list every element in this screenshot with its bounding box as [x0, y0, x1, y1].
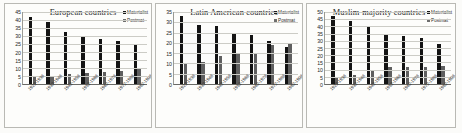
bar-group — [29, 12, 36, 84]
y-axis-tick: 15 — [8, 58, 21, 64]
bar-group — [134, 12, 141, 84]
y-axis-tick: 15 — [159, 51, 172, 57]
bar-group — [81, 12, 88, 84]
y-axis-tick: 20 — [310, 53, 323, 59]
bar-group — [64, 12, 71, 84]
y-axis-tick: 35 — [8, 25, 21, 31]
bar-materialist — [134, 44, 137, 84]
gridline — [174, 53, 298, 54]
y-axis-tick: 25 — [8, 41, 21, 47]
bar-materialist — [349, 21, 352, 84]
y-axis-tick: 45 — [8, 9, 21, 15]
gridline — [325, 70, 451, 71]
bar-materialist — [232, 33, 235, 84]
bar-group — [116, 12, 123, 84]
y-axis-tick: 15 — [310, 60, 323, 66]
y-axis-tick: 10 — [310, 67, 323, 73]
y-axis-tick: 25 — [159, 30, 172, 36]
charts-figure: European countries Materialist Postmat 4… — [0, 0, 462, 133]
chart-panel-european: European countries Materialist Postmat 4… — [4, 3, 152, 128]
y-axis: 50454035302520151050 — [310, 12, 323, 85]
y-axis-tick: 5 — [159, 72, 172, 78]
bar-materialist — [99, 39, 102, 84]
bar-materialist — [29, 17, 32, 84]
gridline — [174, 22, 298, 23]
gridline — [325, 26, 451, 27]
y-axis-tick: 20 — [159, 40, 172, 46]
y-axis-tick: 30 — [159, 19, 172, 25]
gridline — [23, 20, 147, 21]
gridline — [325, 34, 451, 35]
gridline — [23, 44, 147, 45]
gridline — [325, 12, 451, 13]
bar-group — [46, 12, 53, 84]
y-axis-tick: 5 — [8, 74, 21, 80]
bar-materialist — [116, 41, 119, 84]
x-axis-labels: 1922-19361932-19461942-19561952-19661962… — [173, 86, 298, 128]
gridline — [174, 63, 298, 64]
y-axis-tick: 35 — [310, 31, 323, 37]
y-axis-tick: 30 — [310, 38, 323, 44]
y-axis-tick: 10 — [159, 61, 172, 67]
gridline — [23, 68, 147, 69]
bar-group — [99, 12, 106, 84]
gridline — [325, 19, 451, 20]
chart-panel-muslim-majority: Muslim-majority countries Materialist Po… — [306, 3, 456, 128]
y-axis-tick: 25 — [310, 46, 323, 52]
y-axis-tick: 45 — [310, 16, 323, 22]
bar-postmat — [254, 53, 257, 84]
y-axis-tick: 0 — [8, 82, 21, 88]
gridline — [23, 36, 147, 37]
chart-panel-latin-american: Latin American countries Materialist Pos… — [155, 3, 303, 128]
y-axis-tick: 40 — [8, 17, 21, 23]
gridline — [23, 28, 147, 29]
x-axis-labels: 1922-19361932-19461942-19561952-19661962… — [324, 86, 451, 128]
bar-materialist — [267, 41, 270, 84]
y-axis-tick: 0 — [310, 82, 323, 88]
bar-postmat — [271, 45, 274, 84]
y-axis-tick: 5 — [310, 75, 323, 81]
x-axis-labels: 1922-19361932-19461942-19561952-19661962… — [22, 86, 147, 128]
gridline — [23, 60, 147, 61]
gridline — [23, 12, 147, 13]
y-axis-tick: 40 — [310, 24, 323, 30]
y-axis-tick: 50 — [310, 9, 323, 15]
y-axis-tick: 35 — [159, 9, 172, 15]
y-axis: 454035302520151050 — [8, 12, 21, 85]
y-axis-tick: 0 — [159, 82, 172, 88]
gridline — [325, 41, 451, 42]
y-axis: 35302520151050 — [159, 12, 172, 85]
gridline — [174, 33, 298, 34]
gridline — [23, 52, 147, 53]
y-axis-tick: 10 — [8, 66, 21, 72]
gridline — [174, 43, 298, 44]
bar-materialist — [197, 25, 200, 84]
gridline — [174, 12, 298, 13]
bar-materialist — [437, 44, 440, 84]
y-axis-tick: 20 — [8, 50, 21, 56]
gridline — [325, 48, 451, 49]
gridline — [325, 55, 451, 56]
gridline — [325, 62, 451, 63]
bar-materialist — [215, 26, 218, 84]
y-axis-tick: 30 — [8, 33, 21, 39]
